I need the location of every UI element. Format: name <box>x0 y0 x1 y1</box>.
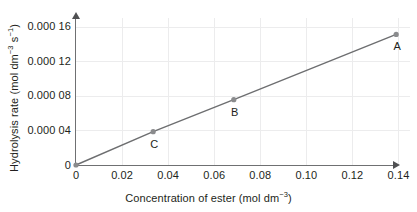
y-axis-title-suffix: ) <box>8 24 20 28</box>
data-point-marker <box>231 97 236 102</box>
y-axis-title-exponent-2: −1 <box>6 28 15 37</box>
data-point-marker <box>151 129 156 134</box>
x-axis-title-text: Concentration of ester (mol dm <box>125 192 279 204</box>
data-point-marker <box>73 162 78 167</box>
data-point-label-a: A <box>394 41 401 52</box>
data-point-label-b: B <box>231 107 238 118</box>
x-axis-title-exponent: −3 <box>279 190 288 199</box>
x-axis-title-suffix: ) <box>288 192 292 204</box>
x-axis-title: Concentration of ester (mol dm−3) <box>0 192 417 204</box>
data-point-label-c: C <box>150 139 158 150</box>
y-axis-title-mid: s <box>8 37 20 46</box>
y-axis-title-exponent-1: −3 <box>6 45 15 54</box>
hydrolysis-rate-chart: 00.000 040.000 080.000 120.000 16 00.020… <box>0 0 417 212</box>
y-axis-title-text: Hydrolysis rate (mol dm <box>8 54 20 172</box>
series-layer <box>0 0 417 212</box>
data-point-marker <box>394 32 399 37</box>
y-axis-title: Hydrolysis rate (mol dm−3 s−1) <box>8 18 20 178</box>
